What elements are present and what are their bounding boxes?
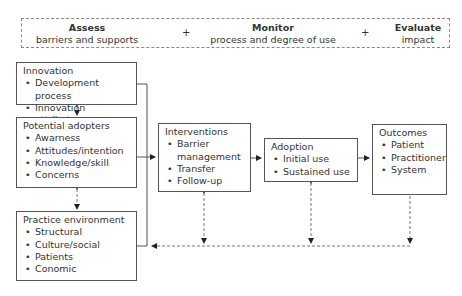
list-item: Concerns: [23, 169, 132, 181]
outcomes-title: Outcomes: [379, 127, 442, 139]
list-item: Knowledge/skill: [23, 157, 132, 169]
innovation-connector: [137, 84, 147, 246]
list-item: Follow-up: [165, 175, 246, 187]
list-item: Transfer: [165, 163, 246, 175]
adoption-title: Adoption: [271, 141, 353, 153]
list-item: Culture/social: [23, 239, 132, 251]
practice-environment-box: Practice environment Structural Culture/…: [16, 211, 137, 281]
interventions-box: Interventions Barrier management Transfe…: [158, 123, 251, 192]
list-item: Practitioner: [379, 152, 442, 164]
list-item: Conomic: [23, 263, 132, 275]
environment-title: Practice environment: [23, 214, 132, 226]
list-item: Patients: [23, 251, 132, 263]
list-item: System: [379, 164, 442, 176]
list-item: Initial use: [271, 153, 353, 165]
interventions-title: Interventions: [165, 126, 246, 138]
list-item: Attitudes/intention: [23, 145, 132, 157]
adoption-box: Adoption Initial use Sustained use: [264, 138, 358, 182]
list-item: Sustained use: [271, 166, 353, 178]
list-item: Barrier management: [165, 138, 246, 163]
adopters-title: Potential adopters: [23, 120, 132, 132]
innovation-box: Innovation Development process Innovatio…: [16, 62, 137, 105]
list-item: Development process: [23, 77, 132, 102]
outcomes-box: Outcomes Patient Practitioner System: [372, 124, 447, 195]
list-item: Awarness: [23, 132, 132, 144]
innovation-title: Innovation: [23, 65, 132, 77]
list-item: Patient: [379, 139, 442, 151]
list-item: Structural: [23, 226, 132, 238]
potential-adopters-box: Potential adopters Awarness Attitudes/in…: [16, 117, 137, 188]
